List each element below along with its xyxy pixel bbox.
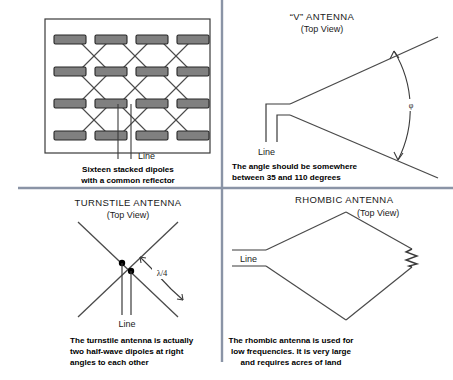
turnstile-feed-points <box>119 260 134 274</box>
v-antenna-figure: “V” ANTENNA (Top View) Line φ The <box>232 11 438 182</box>
rhombic-body <box>266 212 412 320</box>
turnstile-caption-line3: angles to each other <box>70 358 150 367</box>
turnstile-line-label: Line <box>118 319 135 329</box>
dipole-element <box>95 35 127 44</box>
dipole-element <box>95 131 127 140</box>
rhombic-antenna-subtitle: (Top View) <box>357 208 399 218</box>
dipole-element <box>177 131 209 140</box>
dipole-element <box>54 99 86 108</box>
stacked-dipoles-figure: Line Sixteen stacked dipoles with a comm… <box>45 19 210 185</box>
diagram-canvas: Line Sixteen stacked dipoles with a comm… <box>0 0 453 380</box>
v-antenna-subtitle: (Top View) <box>301 24 343 34</box>
dipole-feed-harness <box>78 40 192 136</box>
v-antenna-caption-line2: between 35 and 110 degrees <box>232 173 341 182</box>
turnstile-caption-line1: The turnstile antenna is actually <box>70 336 194 345</box>
dipole-element <box>54 35 86 44</box>
dipole-element <box>136 99 168 108</box>
dipole-element <box>136 67 168 76</box>
dipole-element <box>95 99 127 108</box>
dipole-element <box>54 131 86 140</box>
rhombic-line-label: Line <box>240 254 257 264</box>
dipole-element <box>177 35 209 44</box>
v-antenna-angle-symbol: φ <box>409 101 414 110</box>
rhombic-antenna-figure: RHOMBIC ANTENNA (Top View) Line The rhom… <box>228 194 417 367</box>
dipole-element <box>136 131 168 140</box>
stacked-dipoles-caption-line2: with a common reflector <box>80 176 175 185</box>
v-leg-upper <box>290 37 438 104</box>
dipole-element <box>95 67 127 76</box>
stacked-dipoles-line-label: Line <box>138 151 155 161</box>
dipole-element <box>136 35 168 44</box>
v-antenna-title: “V” ANTENNA <box>290 11 355 22</box>
dipole-element <box>177 67 209 76</box>
turnstile-antenna-figure: TURNSTILE ANTENNA (Top View) Line <box>70 197 194 367</box>
antenna-diagram-page: Line Sixteen stacked dipoles with a comm… <box>0 0 453 380</box>
rhombic-caption-line1: The rhombic antenna is used for <box>228 336 354 345</box>
stacked-dipoles-caption-line1: Sixteen stacked dipoles <box>82 165 174 174</box>
rhombic-caption-line2: low frequencies. It is very large <box>231 347 352 356</box>
dipole-element <box>177 99 209 108</box>
v-antenna-line-label: Line <box>258 147 275 157</box>
v-antenna-angle-arc: φ <box>390 51 417 160</box>
turnstile-antenna-title: TURNSTILE ANTENNA <box>74 197 181 208</box>
dipole-element <box>54 67 86 76</box>
turnstile-antenna-subtitle: (Top View) <box>107 210 149 220</box>
rhombic-caption-line3: and requires acres of land <box>241 358 342 367</box>
rhombic-antenna-title: RHOMBIC ANTENNA <box>295 194 394 205</box>
turnstile-quarter-wave-label: λ/4 <box>157 268 168 278</box>
v-antenna-caption-line1: The angle should be somewhere <box>232 162 358 171</box>
v-antenna-feed-line <box>266 104 290 142</box>
turnstile-caption-line2: two half-wave dipoles at right <box>70 347 184 356</box>
terminating-resistor-icon <box>406 249 417 267</box>
